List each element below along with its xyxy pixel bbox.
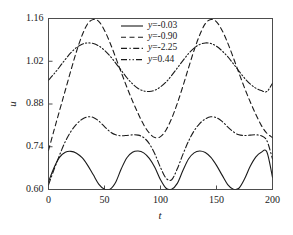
x-tick-label: 100 xyxy=(153,194,168,205)
y-axis-tick-labels: 0.600.740.881.021.16 xyxy=(26,12,44,194)
legend-label: y=-0.90 xyxy=(147,31,178,41)
legend: y=-0.03y=-0.90y=-2.25y=0.44 xyxy=(121,20,178,64)
y-tick-label: 0.60 xyxy=(26,183,44,194)
y-tick-label: 0.74 xyxy=(26,140,44,151)
x-tick-label: 200 xyxy=(265,194,280,205)
x-axis-title: t xyxy=(158,209,162,221)
y-tick-label: 0.88 xyxy=(26,97,44,108)
legend-label: y=0.44 xyxy=(147,54,174,64)
line-chart: 0.600.740.881.021.16 050100150200 y=-0.0… xyxy=(0,0,293,235)
legend-label: y=-0.03 xyxy=(147,20,178,30)
chart-figure: 0.600.740.881.021.16 050100150200 y=-0.0… xyxy=(0,0,293,235)
x-tick-label: 150 xyxy=(209,194,224,205)
x-tick-label: 50 xyxy=(100,194,110,205)
y-tick-label: 1.16 xyxy=(26,12,44,23)
curve-solid xyxy=(49,150,273,190)
y-axis-title: u xyxy=(6,101,18,107)
curve-dash-dot xyxy=(49,117,273,185)
legend-label: y=-2.25 xyxy=(147,43,178,53)
y-tick-label: 1.02 xyxy=(26,55,44,66)
x-tick-label: 0 xyxy=(46,194,51,205)
x-axis-tick-labels: 050100150200 xyxy=(46,194,280,205)
